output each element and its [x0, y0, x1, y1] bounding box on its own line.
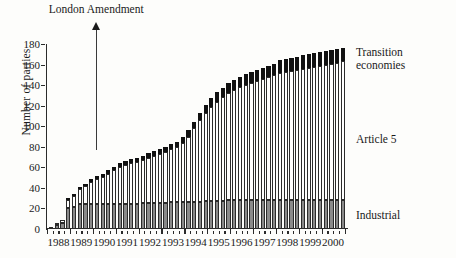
bar-column	[301, 55, 305, 229]
segment-article-5	[255, 81, 259, 200]
london-amendment-arrow-head	[92, 22, 100, 30]
segment-industrial	[175, 202, 179, 229]
segment-industrial	[204, 201, 208, 229]
segment-industrial	[181, 202, 185, 229]
x-axis-tick-mark	[270, 231, 271, 234]
segment-industrial	[307, 200, 311, 229]
legend-item-article-5: Article 5	[356, 133, 397, 146]
segment-industrial	[289, 200, 293, 229]
bar-column	[272, 64, 276, 229]
bar-column	[175, 142, 179, 229]
segment-transition-economies	[232, 80, 236, 90]
segment-transition-economies	[66, 198, 70, 200]
x-axis-tick-mark	[213, 231, 214, 234]
segment-article-5	[163, 152, 167, 203]
x-axis-tick-mark	[99, 231, 100, 234]
legend-label-transition-line1: Transition	[356, 46, 405, 59]
bar-column	[255, 70, 259, 229]
segment-article-5	[232, 90, 236, 200]
x-axis-tick-label: 1989	[70, 236, 92, 248]
bar-column	[101, 174, 105, 230]
segment-transition-economies	[175, 142, 179, 147]
segment-industrial	[261, 200, 265, 229]
segment-industrial	[95, 204, 99, 229]
x-axis-tick-mark	[179, 231, 180, 234]
x-axis-tick-mark	[322, 229, 323, 234]
x-axis-tick-mark	[76, 231, 77, 234]
segment-article-5	[72, 196, 76, 207]
x-axis-tick-label: 2000	[322, 236, 344, 248]
legend-item-transition-economies: Transition economies	[356, 46, 405, 71]
bar-column	[181, 137, 185, 230]
segment-article-5	[60, 220, 64, 223]
bar-column	[60, 220, 64, 229]
bar-column	[186, 130, 190, 229]
x-axis-tick-mark	[116, 229, 117, 234]
segment-transition-economies	[89, 179, 93, 182]
segment-article-5	[129, 163, 133, 204]
segment-article-5	[83, 186, 87, 205]
segment-transition-economies	[244, 74, 248, 85]
segment-transition-economies	[192, 122, 196, 128]
segment-article-5	[101, 177, 105, 205]
segment-article-5	[215, 102, 219, 202]
segment-article-5	[55, 223, 59, 225]
segment-transition-economies	[186, 130, 190, 136]
segment-transition-economies	[95, 176, 99, 179]
segment-industrial	[152, 203, 156, 229]
segment-transition-economies	[146, 153, 150, 158]
y-axis-tick-label: 60	[29, 161, 40, 173]
bar-column	[135, 158, 139, 229]
y-axis-tick-mark	[41, 106, 45, 107]
x-axis-tick-mark	[190, 231, 191, 234]
bar-column	[123, 161, 127, 229]
segment-industrial	[118, 204, 122, 229]
x-axis-tick-mark	[316, 231, 317, 234]
y-axis-tick-label: 180	[24, 38, 41, 50]
bar-column	[289, 58, 293, 229]
bar-column	[215, 92, 219, 229]
segment-article-5	[301, 69, 305, 201]
bar-column	[106, 170, 110, 229]
y-axis-tick-label: 160	[24, 59, 41, 71]
x-axis-tick-mark	[81, 231, 82, 234]
x-axis-tick-label: 1995	[208, 236, 230, 248]
x-axis-tick-mark	[161, 229, 162, 234]
segment-industrial	[272, 200, 276, 229]
x-axis-tick-mark	[150, 231, 151, 234]
segment-industrial	[335, 200, 339, 229]
segment-transition-economies	[289, 58, 293, 70]
segment-industrial	[89, 204, 93, 229]
london-amendment-arrow-shaft	[96, 28, 97, 150]
segment-industrial	[158, 203, 162, 229]
x-axis-tick-mark	[53, 231, 54, 234]
bar-column	[341, 48, 345, 229]
x-axis-tick-label: 1993	[162, 236, 184, 248]
segment-transition-economies	[329, 50, 333, 63]
segment-article-5	[221, 97, 225, 201]
segment-transition-economies	[129, 159, 133, 163]
y-axis-tick-label: 20	[29, 202, 40, 214]
x-axis-tick-mark	[333, 231, 334, 234]
bar-column	[146, 153, 150, 229]
segment-article-5	[244, 85, 248, 200]
segment-industrial	[60, 223, 64, 229]
segment-transition-economies	[295, 57, 299, 69]
segment-industrial	[135, 204, 139, 229]
x-axis-tick-mark	[207, 229, 208, 234]
segment-industrial	[295, 200, 299, 229]
x-axis-tick-mark	[305, 231, 306, 234]
x-axis-tick-mark	[202, 231, 203, 234]
segment-transition-economies	[312, 53, 316, 66]
x-axis-tick-mark	[327, 231, 328, 234]
segment-industrial	[141, 203, 145, 229]
segment-industrial	[101, 204, 105, 229]
bar-column	[169, 144, 173, 229]
bar-column	[95, 176, 99, 229]
x-axis-tick-label: 1998	[276, 236, 298, 248]
segment-article-5	[192, 128, 196, 202]
y-axis-line	[46, 44, 47, 230]
x-axis-tick-mark	[167, 231, 168, 234]
segment-article-5	[329, 64, 333, 201]
segment-article-5	[249, 83, 253, 200]
